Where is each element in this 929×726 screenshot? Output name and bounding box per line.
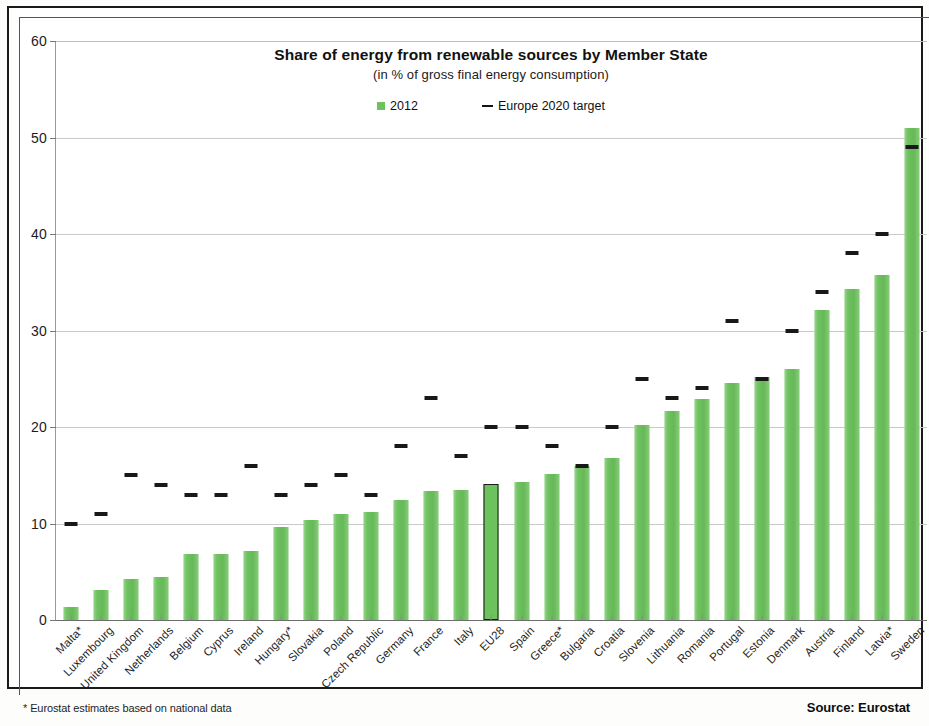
bar-sweden[interactable]	[904, 128, 919, 620]
bar-column[interactable]	[236, 41, 266, 620]
target-marker-estonia	[755, 377, 768, 381]
bar-bulgaria[interactable]	[574, 466, 589, 620]
bar-column[interactable]	[717, 41, 747, 620]
bar-cyprus[interactable]	[214, 554, 229, 620]
chart-footer: * Eurostat estimates based on national d…	[9, 691, 923, 724]
bar-germany[interactable]	[394, 500, 409, 620]
bar-column[interactable]	[777, 41, 807, 620]
target-marker-germany	[395, 444, 408, 448]
x-axis-tick	[371, 615, 372, 620]
bar-column[interactable]	[837, 41, 867, 620]
y-axis-label-0: 0	[39, 612, 47, 628]
bar-column[interactable]	[476, 41, 506, 620]
target-marker-slovakia	[305, 483, 318, 487]
target-marker-lithuania	[665, 396, 678, 400]
x-axis-label-finland: Finland	[831, 624, 867, 660]
x-axis-tick	[581, 615, 582, 620]
target-marker-cyprus	[215, 493, 228, 497]
bar-greece-[interactable]	[544, 474, 559, 620]
bars-group	[56, 41, 927, 620]
target-marker-eu28	[485, 425, 498, 429]
bar-column[interactable]	[416, 41, 446, 620]
x-axis-tick	[791, 615, 792, 620]
bar-portugal[interactable]	[724, 383, 739, 620]
chart-frame: 0102030405060 Share of energy from renew…	[7, 6, 923, 689]
bar-column[interactable]	[597, 41, 627, 620]
bar-column[interactable]	[86, 41, 116, 620]
bar-column[interactable]	[116, 41, 146, 620]
bar-column[interactable]	[897, 41, 927, 620]
bar-column[interactable]	[507, 41, 537, 620]
bar-ireland[interactable]	[244, 551, 259, 620]
bar-romania[interactable]	[694, 399, 709, 620]
bar-austria[interactable]	[814, 310, 829, 620]
bar-column[interactable]	[567, 41, 597, 620]
target-marker-italy	[455, 454, 468, 458]
bar-column[interactable]	[386, 41, 416, 620]
x-axis-tick	[671, 615, 672, 620]
x-axis-labels: Malta*LuxembourgUnited KingdomNetherland…	[55, 622, 927, 700]
target-marker-slovenia	[635, 377, 648, 381]
y-axis-label-30: 30	[31, 323, 47, 339]
bar-column[interactable]	[747, 41, 777, 620]
bar-slovakia[interactable]	[304, 520, 319, 620]
bar-finland[interactable]	[844, 289, 859, 620]
bar-eu28[interactable]	[484, 484, 499, 620]
bar-czech-republic[interactable]	[364, 512, 379, 620]
plot-area: 0102030405060	[55, 41, 927, 621]
x-axis-tick	[641, 615, 642, 620]
bar-column[interactable]	[266, 41, 296, 620]
bar-italy[interactable]	[454, 490, 469, 620]
bar-france[interactable]	[424, 491, 439, 620]
target-marker-malta-	[65, 522, 78, 526]
bar-column[interactable]	[627, 41, 657, 620]
bar-column[interactable]	[446, 41, 476, 620]
source-text: Source: Eurostat	[807, 700, 910, 715]
x-axis-label-france: France	[412, 624, 446, 658]
bar-column[interactable]	[326, 41, 356, 620]
target-marker-sweden	[905, 145, 918, 149]
bar-estonia[interactable]	[754, 377, 769, 620]
bar-column[interactable]	[56, 41, 86, 620]
bar-column[interactable]	[176, 41, 206, 620]
bar-slovenia[interactable]	[634, 425, 649, 620]
bar-column[interactable]	[687, 41, 717, 620]
bar-united-kingdom[interactable]	[124, 579, 139, 620]
bar-column[interactable]	[867, 41, 897, 620]
x-axis-label-austria: Austria	[802, 624, 836, 658]
bar-column[interactable]	[296, 41, 326, 620]
bar-latvia-[interactable]	[874, 275, 889, 620]
bar-croatia[interactable]	[604, 458, 619, 620]
y-axis-label-50: 50	[31, 130, 47, 146]
target-marker-greece-	[545, 444, 558, 448]
bar-denmark[interactable]	[784, 369, 799, 620]
x-axis-label-eu28: EU28	[477, 624, 506, 653]
bar-hungary-[interactable]	[274, 527, 289, 620]
bar-column[interactable]	[807, 41, 837, 620]
y-axis-label-20: 20	[31, 419, 47, 435]
bar-column[interactable]	[657, 41, 687, 620]
target-marker-united-kingdom	[125, 473, 138, 477]
bar-column[interactable]	[537, 41, 567, 620]
bar-spain[interactable]	[514, 482, 529, 620]
x-axis-tick	[101, 615, 102, 620]
x-axis-tick	[191, 615, 192, 620]
x-axis-tick	[401, 615, 402, 620]
x-axis-tick	[821, 615, 822, 620]
x-axis-tick	[611, 615, 612, 620]
target-marker-poland	[335, 473, 348, 477]
bar-belgium[interactable]	[184, 554, 199, 620]
x-axis-tick	[71, 615, 72, 620]
bar-poland[interactable]	[334, 514, 349, 620]
target-marker-netherlands	[155, 483, 168, 487]
target-marker-bulgaria	[575, 464, 588, 468]
target-marker-denmark	[785, 329, 798, 333]
y-axis-tick-0	[50, 620, 56, 621]
bar-netherlands[interactable]	[154, 577, 169, 620]
bar-column[interactable]	[206, 41, 236, 620]
bar-column[interactable]	[356, 41, 386, 620]
bar-column[interactable]	[146, 41, 176, 620]
x-axis-tick	[341, 615, 342, 620]
x-axis-tick	[491, 615, 492, 620]
bar-lithuania[interactable]	[664, 411, 679, 620]
